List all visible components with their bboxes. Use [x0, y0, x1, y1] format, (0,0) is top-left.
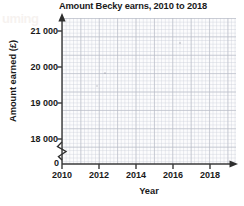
x-tick-label-2018: 2018 [190, 170, 230, 180]
x-tick-label-2014: 2014 [116, 170, 156, 180]
x-tick-label-2016: 2016 [153, 170, 193, 180]
x-tick-label-2010: 2010 [42, 170, 82, 180]
chart-container: uming Amount Becky earns, 2010 to 2018 2… [0, 0, 244, 206]
y-axis-title: Amount earned (£) [8, 16, 18, 146]
x-axis-arrow [230, 160, 239, 167]
x-tick-label-2012: 2012 [79, 170, 119, 180]
y-origin-label: 0 [50, 158, 59, 168]
y-axis-arrow [58, 13, 65, 22]
x-axis-title: Year [62, 186, 236, 196]
